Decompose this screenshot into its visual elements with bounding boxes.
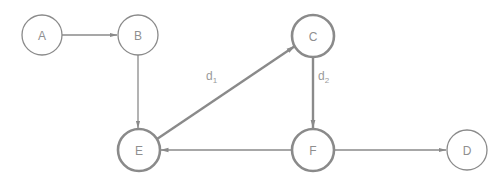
node-a: A: [22, 15, 62, 55]
node-d: D: [447, 130, 487, 170]
node-d-label: D: [463, 144, 472, 158]
node-c-label: C: [309, 30, 318, 44]
node-a-label: A: [38, 29, 46, 43]
node-e-label: E: [135, 144, 143, 158]
node-e: E: [118, 129, 160, 171]
edge-label-d1: d1: [206, 69, 218, 85]
node-f: F: [292, 129, 334, 171]
node-c: C: [292, 15, 334, 57]
edge-label-d1-sub: 1: [213, 76, 218, 85]
node-b-label: B: [134, 29, 142, 43]
edge-e-to-c: [157, 46, 295, 139]
edge-label-d2-main: d: [318, 69, 325, 83]
graph-diagram: d1 d2 A B C E F D: [0, 0, 504, 181]
edge-label-d2: d2: [318, 69, 330, 85]
node-b: B: [118, 15, 158, 55]
edge-label-d1-main: d: [206, 69, 213, 83]
edge-label-d2-sub: 2: [325, 76, 330, 85]
node-f-label: F: [309, 144, 316, 158]
edges: [62, 35, 446, 150]
